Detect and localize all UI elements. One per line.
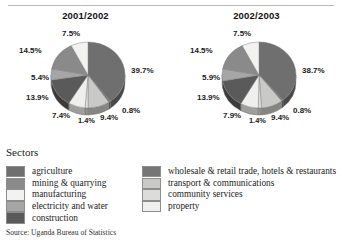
legend-swatch-icon [6,166,25,177]
legend-swatch-icon [6,178,25,189]
chart-panel-2001-2002: 2001/2002 39.7% 0.8% 9.4% 1.4% 7.4% 13.9… [0,10,171,145]
pie-chart-2001-2002 [48,38,128,118]
legend-swatch-icon [142,178,161,189]
pie-slice-side [258,108,261,115]
legend-title: Sectors [6,146,38,158]
pie-label-property: 7.4% [52,111,70,120]
chart-title: 2001/2002 [0,10,171,21]
pie-label-wholesale: 0.8% [122,106,140,115]
legend-swatch-icon [142,166,161,177]
pie-slice-side [85,108,88,115]
legend-item[interactable]: agriculture [6,166,146,178]
pie-label-construction: 13.9% [197,93,220,102]
legend-item[interactable]: construction [6,212,146,224]
legend-item[interactable]: property [142,201,342,213]
legend-swatch-icon [142,189,161,200]
pie-label-transport: 9.4% [271,113,289,122]
legend-swatch-icon [6,201,25,212]
pie-label-property: 7.9% [223,111,241,120]
pie-label-manufacturing: 7.5% [233,29,251,38]
legend-item-label: manufacturing [32,189,86,200]
pie-label-agriculture: 38.7% [302,66,325,75]
legend-item[interactable]: manufacturing [6,189,146,201]
legend-item[interactable]: transport & communications [142,178,342,190]
legend-swatch-icon [142,201,161,212]
legend-item-label: construction [32,213,78,224]
chart-title: 2002/2003 [171,10,342,21]
legend: Sectors agriculturemining & quarryingman… [0,146,342,240]
pie-label-construction: 13.9% [26,93,49,102]
pie-label-electricity: 5.4% [31,73,49,82]
legend-column-right: wholesale & retail trade, hotels & resta… [142,166,342,212]
pie-label-wholesale: 0.8% [293,106,311,115]
pie-label-mining: 14.5% [19,46,42,55]
legend-item[interactable]: mining & quarrying [6,178,146,190]
pie-label-electricity: 5.9% [202,73,220,82]
legend-item-label: property [168,201,200,212]
figure-container: 2001/2002 39.7% 0.8% 9.4% 1.4% 7.4% 13.9… [0,0,342,240]
top-divider [8,5,334,6]
chart-panel-2002-2003: 2002/2003 38.7% 0.8% 9.4% 1.4% 7.9% 13.9… [171,10,342,145]
pie-label-mining: 14.5% [190,46,213,55]
pie-slice-side [109,101,111,109]
legend-item-label: electricity and water [32,201,108,212]
pie-label-manufacturing: 7.5% [62,29,80,38]
legend-swatch-icon [6,189,25,200]
legend-item[interactable]: electricity and water [6,201,146,213]
pie-label-community: 1.4% [78,116,95,125]
pie-label-transport: 9.4% [100,113,118,122]
legend-swatch-icon [6,212,25,223]
legend-item-label: mining & quarrying [32,178,106,189]
legend-column-left: agriculturemining & quarryingmanufacturi… [6,166,146,224]
legend-item-label: transport & communications [168,178,274,189]
pie-slice-side [282,100,283,108]
legend-item[interactable]: community services [142,189,342,201]
legend-item-label: community services [168,189,243,200]
legend-item-label: agriculture [32,166,72,177]
pie-chart-2002-2003 [219,38,299,118]
source-note: Source: Uganda Bureau of Statistics [6,228,116,237]
legend-item[interactable]: wholesale & retail trade, hotels & resta… [142,166,342,178]
pie-label-agriculture: 39.7% [131,66,154,75]
pie-label-community: 1.4% [249,116,266,125]
legend-item-label: wholesale & retail trade, hotels & resta… [168,166,336,177]
